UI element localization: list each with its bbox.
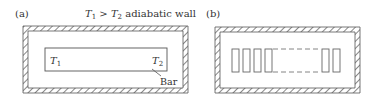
bar-segment	[265, 49, 272, 72]
bar-leader-line	[152, 69, 161, 76]
diagram-canvas: (a) T1 > T2 adiabatic wall T1 T2 Bar (b)	[0, 0, 377, 101]
wall-caption: T1 > T2 adiabatic wall	[85, 8, 196, 21]
bar-segment	[243, 49, 250, 72]
bar-segments-right	[322, 49, 340, 72]
bar	[45, 48, 167, 71]
bar-callout: Bar	[160, 76, 178, 87]
panel-b-label: (b)	[206, 8, 220, 19]
panel-a: (a) T1 > T2 adiabatic wall T1 T2 Bar	[15, 8, 196, 93]
bar-right-temp: T2	[152, 55, 163, 68]
panel-b: (b)	[206, 8, 360, 93]
bar-segment	[333, 49, 340, 72]
adiabatic-wall-b	[215, 27, 360, 93]
bar-continuation-dashed	[273, 49, 321, 72]
bar-left-temp: T1	[50, 55, 61, 68]
bar-segment	[232, 49, 239, 72]
bar-segments-left	[232, 49, 272, 72]
panel-a-label: (a)	[15, 8, 29, 19]
bar-segment	[322, 49, 329, 72]
bar-segment	[254, 49, 261, 72]
